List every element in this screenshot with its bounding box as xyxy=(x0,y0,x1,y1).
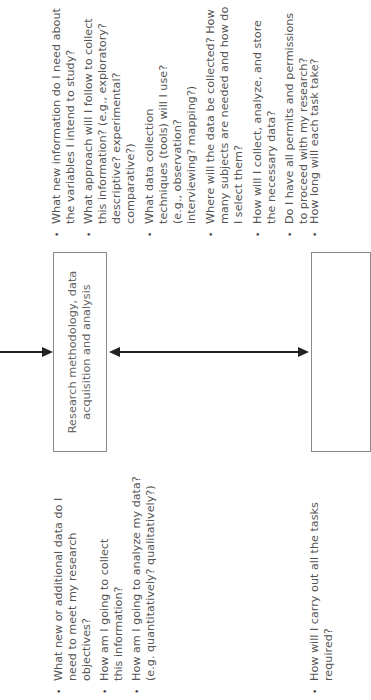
question-text: How long will each task take? xyxy=(308,59,321,224)
bullet-icon: • xyxy=(98,686,112,694)
bullet-icon: • xyxy=(283,229,297,237)
double-arrow-head-top-icon xyxy=(109,347,120,357)
bottom-question-list: • What new or additional data do I need … xyxy=(52,476,163,694)
top-question-list-2: • How long will each task take? xyxy=(308,1,327,237)
question-text: How am I going to collect this informati… xyxy=(98,531,126,681)
bullet-icon: • xyxy=(52,686,66,694)
question-text: How will I collect, analyze, and store t… xyxy=(251,20,278,224)
bullet-icon: • xyxy=(143,229,157,237)
bullet-icon: • xyxy=(251,229,265,237)
list-item: • What approach will I follow to collect… xyxy=(82,1,138,237)
list-item: • Do I have all permits and permissions … xyxy=(283,1,311,237)
double-arrow-head-bottom-icon xyxy=(298,347,309,357)
list-item: • How long will each task take? xyxy=(308,1,322,237)
top-question-list: • What new information do I need about t… xyxy=(50,1,316,237)
bullet-icon: • xyxy=(50,229,64,237)
bullet-icon: • xyxy=(82,229,96,237)
next-stage-box xyxy=(311,252,371,452)
question-text: Do I have all permits and permissions to… xyxy=(283,13,310,224)
list-item: • How am I going to analyze my data? (e.… xyxy=(130,476,158,694)
question-text: How am I going to analyze my data? (e.g.… xyxy=(130,476,157,681)
bullet-icon: • xyxy=(308,229,322,237)
bullet-icon: • xyxy=(308,686,322,694)
list-item: • What data collection techniques (tools… xyxy=(143,1,199,237)
bullet-icon: • xyxy=(130,686,144,694)
question-text: What approach will I follow to collect t… xyxy=(82,18,137,224)
question-text: How will I carry out all the tasks requi… xyxy=(308,502,335,681)
incoming-arrow-head-icon xyxy=(42,347,53,357)
list-item: • What new or additional data do I need … xyxy=(52,476,94,694)
question-text: What data collection techniques (tools) … xyxy=(143,54,199,224)
bottom-question-list-2: • How will I carry out all the tasks req… xyxy=(308,454,341,694)
question-text: What new or additional data do I need to… xyxy=(52,498,93,681)
list-item: • How will I carry out all the tasks req… xyxy=(308,454,336,694)
question-text: What new information do I need about the… xyxy=(50,8,77,224)
list-item: • What new information do I need about t… xyxy=(50,1,78,237)
list-item: • How will I collect, analyze, and store… xyxy=(251,1,279,237)
research-methodology-box: Research methodology, data acquisition a… xyxy=(53,252,107,452)
box-label: Research methodology, data acquisition a… xyxy=(66,267,94,437)
question-text: Where will the data be collected? How ma… xyxy=(204,7,245,224)
list-item: • How am I going to collect this informa… xyxy=(98,476,126,694)
list-item: • Where will the data be collected? How … xyxy=(204,1,246,237)
double-arrow-line xyxy=(112,351,306,353)
bullet-icon: • xyxy=(204,229,218,237)
